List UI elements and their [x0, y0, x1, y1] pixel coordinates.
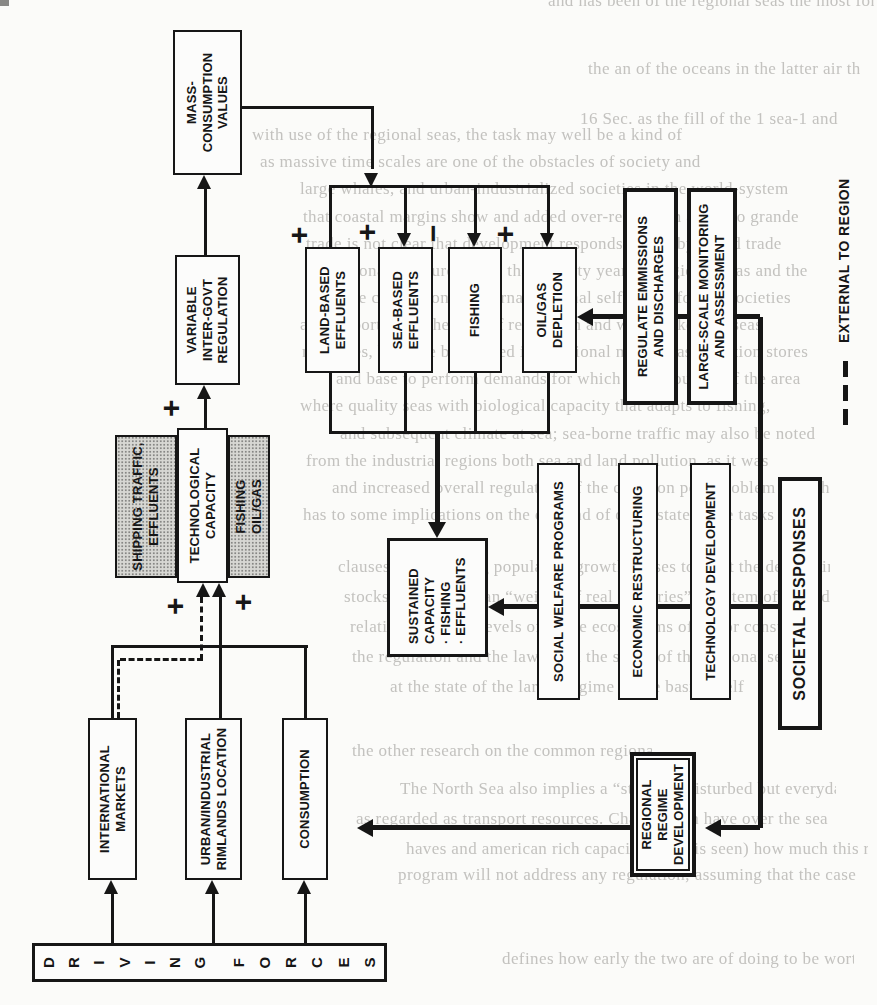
- sign-plus-regulation: +: [156, 399, 186, 417]
- arrowhead-values-to-bus: [364, 173, 378, 187]
- node-sea-based-effluents: SEA-BASED EFFLUENTS: [378, 247, 433, 373]
- arrowhead-trunk-to-sustained: [488, 598, 504, 616]
- arrowhead-to-regional: [705, 819, 721, 837]
- collector-to-sustained-line: [435, 433, 440, 524]
- regional-to-consumption-line: [371, 826, 630, 831]
- node-economic-restructuring: ECONOMIC RESTRUCTURING: [618, 463, 658, 700]
- regulation-to-values-line: [204, 189, 207, 255]
- arrowhead-to-consumption: [297, 880, 311, 894]
- node-mass-consumption-values: MASS- CONSUMPTION VALUES: [173, 30, 242, 175]
- arrowhead-to-sea-based: [397, 233, 411, 247]
- node-sustained-capacity: SUSTAINED CAPACITY · FISHING · EFFLUENTS: [387, 538, 488, 657]
- sign-plus-sea-based: +: [352, 223, 382, 241]
- node-social-welfare-programs: SOCIAL WELFARE PROGRAMS: [537, 463, 580, 700]
- bus-to-oilgas-line: [547, 187, 550, 233]
- arrowhead-regional-to-consumption: [357, 819, 373, 837]
- arrowhead-to-regulation: [197, 385, 211, 399]
- branch-to-regional-line: [719, 826, 760, 831]
- dashed-markets-line-v: [120, 659, 203, 662]
- rotated-figure-wrapper: EXTERNAL TO REGION + + + + + − + D R I V…: [0, 0, 877, 1005]
- sign-plus-oilgas: +: [490, 225, 520, 243]
- driving-forces-flow-diagram: EXTERNAL TO REGION + + + + + − + D R I V…: [0, 0, 877, 1005]
- legend-dash-3: [843, 361, 848, 377]
- node-driving-forces: D R I V I N G F O R C E S: [32, 943, 387, 982]
- bus-to-sea-based-line: [404, 187, 407, 233]
- sign-minus-fishing: −: [418, 224, 448, 242]
- node-fishing: FISHING: [448, 247, 502, 373]
- node-shipping-traffic-effluents: SHIPPING TRAFFIC, EFFLUENTS: [115, 435, 177, 578]
- sea-based-out-line: [404, 373, 407, 433]
- bus-to-land-based-line: [329, 186, 332, 247]
- scanned-book-page: and has been of the regional seas the mo…: [0, 0, 877, 1005]
- oilgas-out-line: [547, 373, 550, 433]
- values-feedback-line-h: [371, 108, 374, 169]
- legend-dash-2: [843, 385, 848, 401]
- node-oilgas-depletion: OIL/GAS DEPLETION: [522, 247, 577, 373]
- arrowhead-to-values: [197, 175, 211, 189]
- edge-driving-to-urban-line: [212, 892, 215, 943]
- pressures-bus-line: [329, 186, 550, 189]
- arrowhead-to-capacity-solid: [212, 583, 226, 597]
- fishing-out-line: [474, 373, 477, 433]
- dashed-markets-line-h2: [200, 597, 203, 660]
- node-regulate-emissions-discharges: REGULATE EMMISSIONS AND DISCHARGES: [623, 188, 678, 405]
- node-variable-inter-govt-regulation: VARIABLE INTER-GOVT REGULATION: [175, 255, 240, 385]
- word-forces: F O R C E S: [230, 946, 379, 979]
- arrowhead-regulate-to-oilgas: [577, 308, 593, 326]
- urban-to-capacity-line: [219, 597, 222, 718]
- values-feedback-line-v: [242, 107, 374, 110]
- arrowhead-to-sustained: [428, 522, 446, 538]
- arrowhead-to-international: [104, 880, 118, 894]
- node-urban-industrial-rimlands: URBAN/INDUSTRIAL RIMLANDS LOCATION: [185, 718, 242, 880]
- arrowhead-to-urban: [205, 880, 219, 894]
- bus-to-fishing-line: [474, 187, 477, 233]
- sign-plus-dashed-capacity: +: [160, 597, 190, 615]
- word-driving: D R I V I N G: [40, 946, 210, 979]
- node-societal-responses: SOCIETAL RESPONSES: [778, 477, 822, 730]
- node-large-scale-monitoring-assessment: LARGE-SCALE MONITORING AND ASSESSMENT: [687, 188, 737, 405]
- driving-forces-letters: D R I V I N G F O R C E S: [35, 946, 384, 979]
- consumption-to-trunk-line: [304, 647, 307, 718]
- node-technology-development: TECHNOLOGY DEVELOPMENT: [690, 463, 731, 700]
- land-based-out-line: [329, 373, 332, 433]
- node-consumption: CONSUMPTION: [282, 718, 328, 880]
- capacity-to-regulation-line: [204, 399, 207, 428]
- arrowhead-to-oilgas: [540, 233, 554, 247]
- legend-external-to-region-label: EXTERNAL TO REGION: [836, 178, 852, 343]
- node-fishing-oilgas-gray: FISHING OIL/GAS: [228, 435, 270, 578]
- node-technological-capacity: TECHNOLOGICAL CAPACITY: [177, 428, 228, 583]
- arrowhead-to-fishing: [467, 233, 481, 247]
- international-to-trunk-line: [111, 647, 114, 718]
- dashed-markets-line-h1: [117, 660, 120, 718]
- sign-plus-land-based: +: [284, 226, 314, 244]
- legend-dash-1: [843, 409, 848, 425]
- arrowhead-to-capacity-dashed: [196, 583, 210, 597]
- node-regional-regime-development: REGIONAL REGIME DEVELOPMENT: [630, 752, 696, 877]
- edge-driving-to-consumption-line: [304, 892, 307, 943]
- sign-plus-solid-capacity: +: [228, 593, 258, 611]
- drivers-trunk-line: [111, 646, 308, 649]
- edge-driving-to-international-line: [111, 892, 114, 943]
- responses-cross-line: [758, 317, 763, 828]
- node-international-markets: INTERNATIONAL MARKETS: [88, 718, 137, 880]
- node-land-based-effluents: LAND-BASED EFFLUENTS: [305, 247, 360, 373]
